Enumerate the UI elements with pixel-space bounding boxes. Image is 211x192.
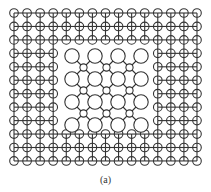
- small-node-icon: [80, 110, 87, 117]
- big-node-icon: [88, 49, 102, 63]
- big-node-icon: [65, 95, 79, 109]
- figure-caption: (a): [0, 174, 211, 185]
- big-node-icon: [65, 49, 79, 63]
- big-node-icon: [88, 95, 102, 109]
- big-node-icon: [134, 118, 148, 132]
- small-node-icon: [126, 64, 133, 71]
- lattice-diagram: [0, 0, 211, 192]
- big-node-icon: [65, 118, 79, 132]
- big-node-icon: [134, 72, 148, 86]
- small-node-icon: [103, 87, 110, 94]
- big-node-icon: [111, 95, 125, 109]
- big-node-icon: [111, 118, 125, 132]
- big-node-icon: [88, 72, 102, 86]
- big-node-icon: [111, 49, 125, 63]
- small-node-icon: [126, 87, 133, 94]
- small-node-icon: [80, 64, 87, 71]
- big-node-icon: [134, 95, 148, 109]
- small-node-icon: [103, 64, 110, 71]
- big-node-icon: [88, 118, 102, 132]
- small-node-icon: [80, 87, 87, 94]
- big-node-icon: [111, 72, 125, 86]
- inner-lattice-nodes: [65, 49, 148, 132]
- big-node-icon: [134, 49, 148, 63]
- small-node-icon: [126, 110, 133, 117]
- big-node-icon: [65, 72, 79, 86]
- small-node-icon: [103, 110, 110, 117]
